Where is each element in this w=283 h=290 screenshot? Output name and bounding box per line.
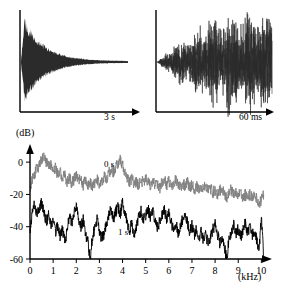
spectrum-x-tick-label: 3 — [97, 265, 102, 276]
spectrum-x-tick-label: 7 — [189, 265, 194, 276]
spectrum-x-tick-label: 2 — [74, 265, 79, 276]
spectrum-x-ticks: 012345678910 — [28, 259, 267, 276]
series-label-0s: 0 s — [104, 159, 115, 169]
spectrum-x-axis-arrow — [262, 255, 272, 263]
spectrum-panel: 0 s 1 s 0-20-40-60 012345678910 — [0, 126, 283, 290]
spectrum-x-tick-label: 1 — [51, 265, 56, 276]
waveform-detail-time-label: 60 ms — [239, 113, 262, 123]
waveform-decay-plot — [16, 4, 146, 126]
spectrum-y-tick-label: -40 — [10, 221, 23, 232]
spectrum-x-tick-label: 8 — [213, 265, 218, 276]
waveform-detail-plot — [152, 4, 280, 126]
spectrum-y-tick-label: -60 — [10, 254, 23, 265]
spectrum-x-tick-label: 0 — [28, 265, 33, 276]
spectrum-series-group — [30, 153, 264, 259]
series-label-1s: 1 s — [118, 227, 129, 237]
waveform-detail-axis-arrow — [266, 108, 274, 116]
spectrum-x-tick-label: 5 — [143, 265, 148, 276]
spectrum-y-ticks: 0-20-40-60 — [10, 157, 30, 265]
waveform-decay-axis-arrow — [132, 108, 140, 116]
waveform-decay-panel — [16, 4, 146, 126]
spectrum-x-tick-label: 4 — [120, 265, 125, 276]
waveform-decay-trace — [21, 19, 128, 102]
spectrum-x-tick-label: 6 — [166, 265, 171, 276]
waveform-detail-panel — [152, 4, 280, 126]
spectrum-x-axis-unit: (kHz) — [238, 272, 261, 282]
spectrum-y-tick-label: -20 — [10, 189, 23, 200]
spectrum-series-1s — [30, 198, 264, 259]
acoustic-figure: 3 s 60 ms (dB) 0 s 1 s — [0, 0, 283, 290]
spectrum-y-tick-label: 0 — [18, 157, 23, 168]
spectrum-series-0s — [30, 153, 264, 208]
waveform-detail-trace — [157, 12, 272, 117]
spectrum-y-axis-arrow — [26, 144, 34, 154]
waveform-decay-time-label: 3 s — [104, 113, 115, 123]
spectrum-plot: 0 s 1 s 0-20-40-60 012345678910 — [0, 126, 283, 290]
